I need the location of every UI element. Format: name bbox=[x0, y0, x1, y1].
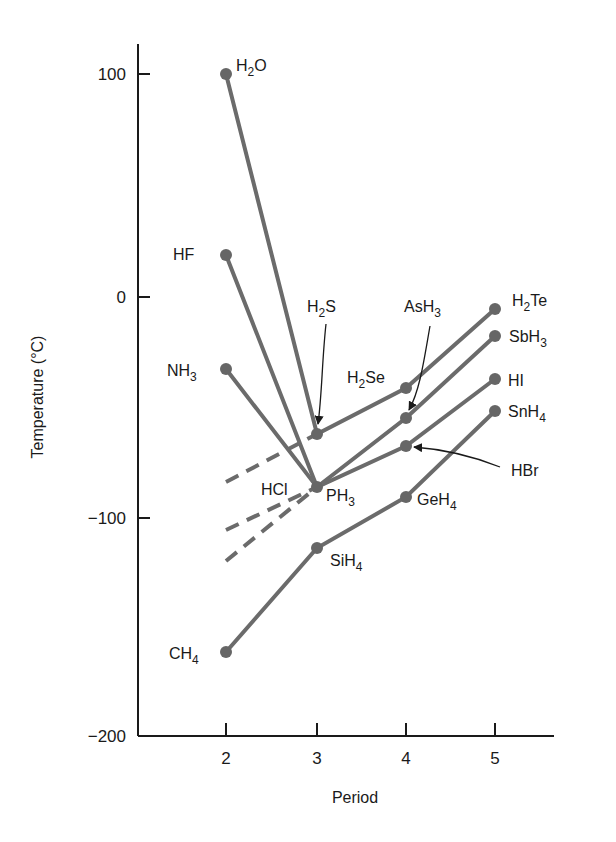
point-labels: H2O HF NH3 CH4 H2S HCl PH3 SiH4 H2Se AsH… bbox=[167, 57, 547, 667]
point-snh4 bbox=[489, 405, 501, 417]
point-h2o bbox=[220, 68, 232, 80]
point-sih4 bbox=[311, 542, 323, 554]
axes bbox=[138, 44, 554, 736]
label-snh4: SnH4 bbox=[508, 403, 546, 425]
y-tick-labels: 100 0 −100 −200 bbox=[88, 65, 126, 746]
label-h2o: H2O bbox=[236, 57, 267, 79]
label-hcl: HCl bbox=[261, 481, 288, 498]
label-geh4: GeH4 bbox=[417, 491, 457, 513]
x-tick-label: 4 bbox=[401, 749, 410, 768]
point-geh4 bbox=[400, 491, 412, 503]
ph3-extrapolation bbox=[226, 487, 317, 561]
label-h2te: H2Te bbox=[512, 292, 547, 314]
point-nh3 bbox=[220, 363, 232, 375]
point-h2te bbox=[489, 303, 501, 315]
x-tick-label: 5 bbox=[490, 749, 499, 768]
x-tick-labels: 2 3 4 5 bbox=[221, 749, 499, 768]
point-h2s bbox=[311, 428, 323, 440]
hydride-boiling-point-chart: 100 0 −100 −200 2 3 4 5 Period Temperatu… bbox=[0, 0, 616, 842]
y-tick-label: 0 bbox=[117, 288, 126, 307]
label-h2se: H2Se bbox=[347, 369, 385, 391]
group14-line bbox=[226, 411, 495, 652]
point-ch4 bbox=[220, 646, 232, 658]
label-h2s: H2S bbox=[307, 298, 336, 320]
y-tick-label: 100 bbox=[98, 65, 126, 84]
y-tick-label: −100 bbox=[88, 509, 126, 528]
y-axis-title: Temperature (°C) bbox=[29, 336, 46, 459]
label-ph3: PH3 bbox=[326, 487, 355, 509]
x-tick-label: 3 bbox=[312, 749, 321, 768]
label-ch4: CH4 bbox=[169, 645, 199, 667]
h2s-extrapolation bbox=[226, 434, 317, 482]
point-h2se bbox=[400, 382, 412, 394]
point-hi bbox=[489, 373, 501, 385]
label-nh3: NH3 bbox=[167, 362, 197, 384]
x-tick-label: 2 bbox=[221, 749, 230, 768]
label-hi: HI bbox=[508, 372, 524, 389]
label-hf: HF bbox=[173, 246, 195, 263]
h2s-arrow bbox=[318, 324, 326, 424]
x-axis-title: Period bbox=[332, 789, 378, 806]
point-hbr bbox=[400, 440, 412, 452]
label-ash3: AsH3 bbox=[404, 298, 441, 320]
point-hf bbox=[220, 249, 232, 261]
label-sbh3: SbH3 bbox=[509, 328, 547, 350]
point-ash3 bbox=[400, 412, 412, 424]
point-hcl-ph3 bbox=[311, 481, 323, 493]
label-hbr: HBr bbox=[511, 462, 539, 479]
label-sih4: SiH4 bbox=[330, 552, 363, 574]
point-sbh3 bbox=[489, 330, 501, 342]
y-tick-label: −200 bbox=[88, 727, 126, 746]
